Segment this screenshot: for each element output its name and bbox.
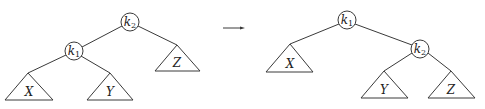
edge-k2-k1 [82,26,122,47]
edge-k1-x [290,24,339,44]
subtree-label: X [285,57,295,71]
edge-k1-k2 [355,24,412,45]
node-k2: k2 [411,40,429,58]
edge-k1-x [28,55,66,73]
node-k1: k1 [338,11,356,29]
edge-k2-z [428,53,451,71]
node-subscript: 1 [348,19,353,28]
subtree-label: Z [172,56,182,70]
node-letter: k [414,42,421,56]
node-subscript: 1 [75,50,80,59]
subtree-x: X [5,73,53,100]
rotation-diagram: X Y Z k2 k1 [0,0,485,109]
node-letter: k [341,13,348,27]
node-subscript: 2 [421,48,426,57]
tree-after: X Y Z k1 k2 [266,11,475,98]
subtree-x: X [266,44,313,72]
arrow-head-icon [240,27,245,30]
edge-k1-y [81,56,110,73]
edge-k2-z [138,26,177,45]
transform-arrow [223,27,245,30]
subtree-label: Z [446,83,456,97]
subtree-z: Z [155,45,200,71]
subtree-label: Y [380,83,389,97]
node-letter: k [124,15,131,29]
tree-before: X Y Z k2 k1 [5,13,200,100]
subtree-label: X [24,85,34,99]
node-k1: k1 [65,42,83,60]
subtree-label: Y [106,85,115,99]
edge-k2-y [384,53,412,71]
subtree-y: Y [361,71,408,98]
node-subscript: 2 [131,21,136,30]
node-letter: k [68,44,75,58]
node-k2: k2 [121,13,139,31]
subtree-y: Y [87,73,133,100]
subtree-z: Z [428,71,475,98]
